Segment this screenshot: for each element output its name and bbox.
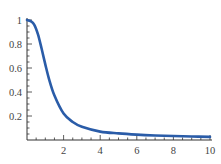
y-tick-label: 0.6 — [9, 63, 22, 74]
ticks — [27, 20, 210, 140]
y-tick-label: 0.8 — [9, 39, 22, 50]
x-tick-label: 4 — [98, 145, 104, 156]
line-chart: 2468100.20.40.60.81 — [0, 0, 221, 164]
axes — [27, 18, 212, 140]
tick-labels: 2468100.20.40.60.81 — [9, 15, 215, 157]
x-tick-label: 10 — [205, 145, 216, 156]
x-tick-label: 8 — [171, 145, 176, 156]
x-tick-label: 6 — [134, 145, 139, 156]
y-tick-label: 1 — [17, 15, 22, 26]
y-tick-label: 0.2 — [9, 111, 22, 122]
data-curve — [27, 20, 210, 137]
y-tick-label: 0.4 — [9, 87, 23, 98]
x-tick-label: 2 — [61, 145, 66, 156]
